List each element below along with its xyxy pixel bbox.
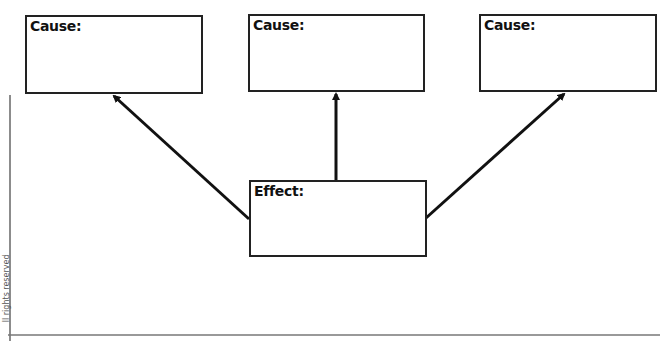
copyright-margin-text: ll rights reserved: [2, 255, 11, 335]
arrow-to-cause-1: [114, 96, 249, 219]
cause-box-1[interactable]: Cause:: [25, 15, 203, 94]
cause-label: Cause:: [253, 17, 304, 33]
cause-label: Cause:: [30, 18, 81, 34]
cause-label: Cause:: [484, 17, 535, 33]
cause-box-2[interactable]: Cause:: [248, 14, 425, 92]
arrow-to-cause-3: [426, 94, 564, 218]
effect-label: Effect:: [254, 183, 304, 199]
effect-box[interactable]: Effect:: [249, 180, 427, 257]
cause-box-3[interactable]: Cause:: [479, 14, 657, 92]
